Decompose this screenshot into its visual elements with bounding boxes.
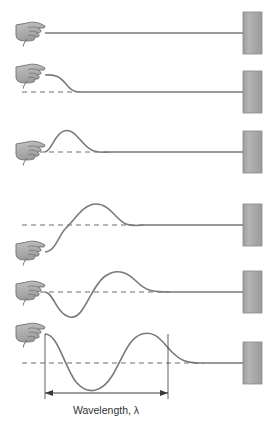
figure-background (0, 0, 277, 425)
wall-post (243, 131, 262, 173)
wall-post (243, 12, 262, 54)
wavelength-label: Wavelength, λ (73, 404, 140, 416)
wall-post (243, 271, 262, 313)
wall-post (243, 204, 262, 246)
wall-post (243, 71, 262, 113)
wall-post (243, 342, 262, 384)
wave-propagation-diagram: Wavelength, λ (0, 0, 277, 425)
